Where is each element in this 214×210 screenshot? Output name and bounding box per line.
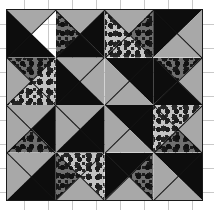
quilt-unit-r2-c0 (7, 105, 56, 153)
quilt-unit-r2-c3 (153, 105, 202, 153)
quilt-unit-r2-c1 (56, 105, 105, 153)
quilt-block (6, 9, 203, 201)
quilt-block-canvas (0, 0, 214, 210)
quilt-unit-r1-c3 (153, 58, 202, 106)
quilt-unit-r1-c2 (105, 58, 154, 106)
quilt-unit-r2-c2 (105, 105, 154, 153)
quilt-unit-r3-c1 (56, 153, 105, 201)
quilt-unit-r3-c0 (7, 153, 56, 201)
quilt-unit-r1-c1 (56, 58, 105, 106)
quilt-unit-r0-c0 (7, 10, 56, 58)
quilt-unit-r3-c2 (105, 153, 154, 201)
quilt-unit-r0-c2 (105, 10, 154, 58)
quilt-unit-r0-c1 (56, 10, 105, 58)
quilt-unit-r1-c0 (7, 58, 56, 106)
quilt-unit-r0-c3 (153, 10, 202, 58)
quilt-unit-r3-c3 (153, 153, 202, 201)
